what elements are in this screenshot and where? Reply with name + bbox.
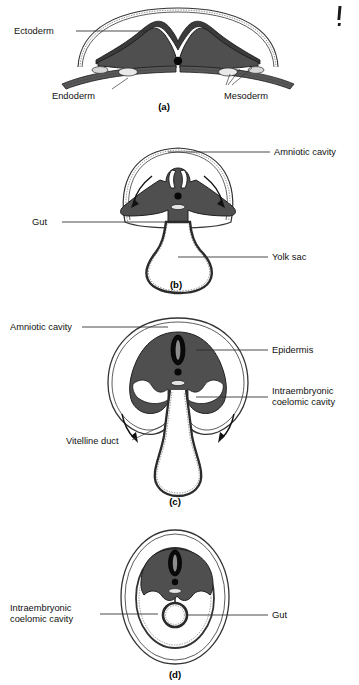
panel-a-label-endoderm: Endoderm (52, 91, 95, 101)
panel-d-gut-tube (163, 603, 187, 627)
panel-d-notochord (172, 579, 178, 585)
panel-c-label-vitelline-duct: Vitelline duct (66, 436, 119, 446)
panel-c-neural-tube (171, 335, 185, 365)
panel-d-label-intraembryonic-coelomic-cavity-line1: Intraembryonic (10, 603, 72, 613)
panel-b-gut-plate (171, 204, 185, 209)
figure-canvas: Ectoderm Endoderm Mesoderm (a) (0, 0, 359, 685)
panel-a-caption: (a) (158, 101, 170, 112)
panel-d-gut-plate (169, 589, 182, 594)
panel-a-label-mesoderm: Mesoderm (224, 91, 268, 101)
panel-d-caption: (d) (169, 669, 181, 680)
panel-b-label-yolk-sac: Yolk sac (272, 252, 307, 262)
corner-crop-mark (337, 6, 341, 26)
panel-a: Ectoderm Endoderm Mesoderm (a) (14, 8, 294, 112)
embryonic-folding-figure: Ectoderm Endoderm Mesoderm (a) (0, 0, 359, 685)
panel-a-notochord (174, 57, 182, 65)
panel-c: Amniotic cavity Epidermis Intraembryonic… (10, 318, 335, 507)
panel-b-caption: (b) (170, 279, 182, 290)
panel-d-label-gut: Gut (272, 610, 287, 620)
panel-c-label-intraembryonic-coelomic-cavity-line1: Intraembryonic (272, 386, 334, 396)
panel-c-label-amniotic-cavity: Amniotic cavity (10, 322, 72, 332)
panel-b-label-amniotic-cavity: Amniotic cavity (274, 147, 336, 157)
panel-b-label-gut: Gut (32, 217, 47, 227)
panel-c-caption: (c) (169, 496, 181, 507)
panel-c-label-epidermis: Epidermis (272, 345, 314, 355)
panel-c-gut-plate (171, 380, 185, 385)
panel-c-notochord (174, 368, 181, 375)
panel-c-label-intraembryonic-coelomic-cavity-line2: coelomic cavity (272, 397, 335, 407)
panel-d: Intraembryonic coelomic cavity Gut (d) (10, 530, 287, 680)
panel-a-label-ectoderm: Ectoderm (14, 26, 54, 36)
panel-d-neural-tube (169, 550, 182, 576)
panel-b: Amniotic cavity Gut Yolk sac (b) (32, 147, 336, 293)
panel-d-label-intraembryonic-coelomic-cavity-line2: coelomic cavity (10, 614, 73, 624)
panel-b-notochord (174, 192, 181, 199)
